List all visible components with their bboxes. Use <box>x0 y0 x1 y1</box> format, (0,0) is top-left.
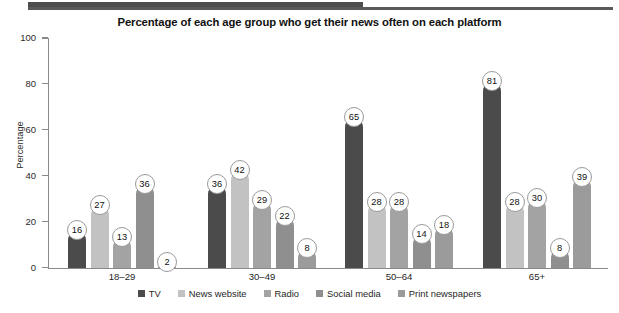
y-tick-label: 60 <box>25 125 36 135</box>
y-tick-label: 100 <box>20 33 36 43</box>
bar <box>231 171 249 267</box>
y-tick-mark <box>42 83 48 84</box>
bar <box>91 206 109 268</box>
y-axis-line <box>48 38 49 268</box>
y-tick-mark <box>42 37 48 38</box>
legend-item[interactable]: TV <box>138 288 161 299</box>
legend-swatch-icon <box>178 290 185 297</box>
y-tick-mark <box>42 267 48 268</box>
bar-value-label: 22 <box>275 206 295 226</box>
y-tick-mark <box>42 129 48 130</box>
bar-value-label: 30 <box>527 188 547 208</box>
y-tick-label: 80 <box>25 79 36 89</box>
bar-value-label: 81 <box>482 71 502 91</box>
legend-label: News website <box>189 288 247 299</box>
bar-value-label: 2 <box>157 252 177 272</box>
legend-item[interactable]: Print newspapers <box>398 288 481 299</box>
bar <box>573 178 591 268</box>
bar-value-label: 36 <box>207 174 227 194</box>
bar-value-label: 16 <box>67 220 87 240</box>
legend-swatch-icon <box>138 290 145 297</box>
bar-value-label: 42 <box>230 160 250 180</box>
x-axis-group-label: 50–64 <box>339 271 459 282</box>
legend-item[interactable]: Social media <box>316 288 381 299</box>
bar-value-label: 13 <box>112 227 132 247</box>
legend-label: TV <box>149 288 161 299</box>
bar <box>506 203 524 267</box>
legend-item[interactable]: Radio <box>264 288 300 299</box>
bar <box>528 199 546 268</box>
bar-value-label: 28 <box>367 192 387 212</box>
legend-swatch-icon <box>398 290 405 297</box>
legend-label: Social media <box>327 288 381 299</box>
bar <box>345 118 363 267</box>
bar-value-label: 8 <box>550 238 570 258</box>
bar-value-label: 27 <box>90 195 110 215</box>
legend-item[interactable]: News website <box>178 288 247 299</box>
bar <box>483 82 501 268</box>
bar-value-label: 14 <box>412 224 432 244</box>
x-axis-group-label: 65+ <box>477 271 597 282</box>
y-axis-title: Percentage <box>15 105 25 185</box>
legend-label: Radio <box>275 288 300 299</box>
bar-value-label: 39 <box>572 167 592 187</box>
chart-legend: TVNews websiteRadioSocial mediaPrint new… <box>0 288 619 299</box>
bar <box>136 185 154 268</box>
bar-value-label: 36 <box>135 174 155 194</box>
y-tick-mark <box>42 221 48 222</box>
bar-value-label: 8 <box>297 238 317 258</box>
y-tick-mark <box>42 175 48 176</box>
bar <box>390 203 408 267</box>
bar <box>368 203 386 267</box>
chart-plot-area: Percentage 020406080100 1627133623642292… <box>0 0 619 313</box>
x-axis-group-label: 30–49 <box>202 271 322 282</box>
x-axis-line <box>48 268 608 270</box>
x-axis-group-label: 18–29 <box>62 271 182 282</box>
bar <box>253 201 271 268</box>
bar <box>208 185 226 268</box>
legend-swatch-icon <box>264 290 271 297</box>
y-tick-label: 40 <box>25 171 36 181</box>
y-tick-label: 0 <box>31 263 36 273</box>
legend-label: Print newspapers <box>409 288 481 299</box>
bar-value-label: 29 <box>252 190 272 210</box>
y-tick-label: 20 <box>25 217 36 227</box>
bar-value-label: 28 <box>505 192 525 212</box>
legend-swatch-icon <box>316 290 323 297</box>
